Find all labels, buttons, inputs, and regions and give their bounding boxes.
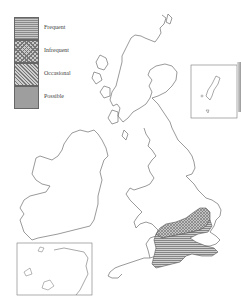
occasional-swatch [14,63,39,86]
infrequent-swatch [14,40,39,63]
legend-label: Frequent [44,24,65,30]
frequent-swatch [14,17,39,40]
possible-swatch [14,86,39,109]
channel-inset [17,243,92,295]
legend-label: Possible [44,93,64,99]
ireland-outline [20,130,108,240]
legend-label: Infrequent [44,47,69,53]
shaded-region-southeast [152,208,218,268]
shetland-inset [191,65,237,118]
legend-label: Occasional [44,70,71,76]
scan-edge [237,62,241,112]
